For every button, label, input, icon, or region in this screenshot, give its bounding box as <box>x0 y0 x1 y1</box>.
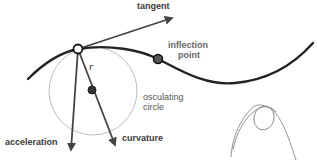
radius-label: r <box>89 61 93 71</box>
tangent-label: tangent <box>137 1 170 11</box>
inflection-point-label-line2: point <box>178 50 200 60</box>
curvature-vector <box>78 49 115 145</box>
osculating-circle-label-line1: osculating <box>143 92 184 102</box>
contact-point-marker <box>74 45 83 54</box>
finger-sketch-icon <box>231 104 296 160</box>
circle-center-point <box>88 86 96 94</box>
curvature-label: curvature <box>122 133 163 143</box>
inflection-point-label-line1: inflection <box>168 40 208 50</box>
acceleration-label: acceleration <box>5 137 58 147</box>
osculating-circle-label-line2: circle <box>143 102 164 112</box>
curvature-diagram: tangent inflection point r osculating ci… <box>0 0 317 163</box>
inflection-point-marker <box>154 55 163 64</box>
tangent-vector <box>78 18 172 49</box>
acceleration-vector <box>71 49 78 150</box>
